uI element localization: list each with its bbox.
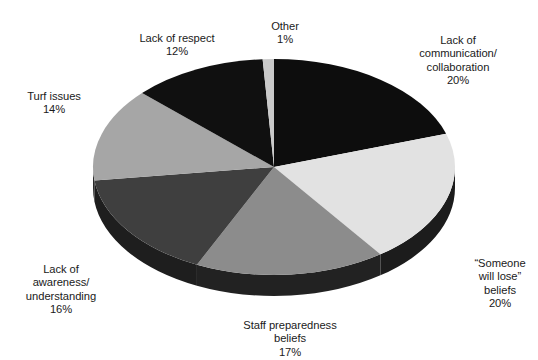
slice-label-someone-will-lose-text: “Someone will lose” beliefs [474,257,525,296]
slice-label-other: Other 1% [234,6,336,60]
slice-label-other-percent: 1% [234,33,336,47]
slice-label-other-text: Other [271,20,299,32]
slice-label-awareness-understanding: Lack of awareness/ understanding 16% [8,249,114,331]
slice-label-turf-issues-text: Turf issues [27,90,81,102]
slice-label-turf-issues: Turf issues 14% [2,76,106,130]
slice-label-someone-will-lose-percent: 20% [462,297,538,311]
slice-label-lack-of-respect-text: Lack of respect [139,32,214,44]
slice-label-staff-preparedness: Staff preparedness beliefs 17% [214,305,366,360]
slice-label-staff-preparedness-text: Staff preparedness beliefs [243,319,336,345]
slice-label-staff-preparedness-percent: 17% [214,346,366,360]
slice-label-awareness-understanding-percent: 16% [8,303,114,317]
slice-label-lack-of-respect: Lack of respect 12% [116,18,238,72]
slice-label-communication-percent: 20% [382,74,534,88]
slice-label-awareness-understanding-text: Lack of awareness/ understanding [26,263,96,302]
slice-label-someone-will-lose: “Someone will lose” beliefs 20% [462,243,538,325]
slice-label-communication-text: Lack of communication/ collaboration [419,34,497,73]
slice-label-lack-of-respect-percent: 12% [116,45,238,59]
slice-label-turf-issues-percent: 14% [2,103,106,117]
slice-label-communication: Lack of communication/ collaboration 20% [382,20,534,102]
